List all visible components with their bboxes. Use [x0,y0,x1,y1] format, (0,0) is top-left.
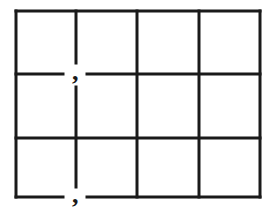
comma-mark-lower: , [72,180,79,209]
grid-figure: , , [0,0,275,215]
comma-mark-upper: , [72,57,79,86]
